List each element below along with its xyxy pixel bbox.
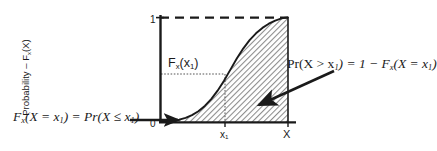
x-axis-tick-x1: x1	[220, 130, 228, 141]
right-formula-label: Pr(X > x1) = 1 − Fx(X = x1)	[287, 57, 437, 72]
cdf-diagram: Fx(X = x1) = Pr(X ≤ x1) Pr(X > x1) = 1 −…	[0, 0, 437, 151]
y-axis-tick-zero: 0	[150, 119, 156, 129]
x-axis-label: X	[283, 129, 290, 140]
curve-value-label: Fx(x1)	[168, 57, 198, 70]
y-axis-tick-one: 1	[150, 15, 156, 25]
y-axis-label: Probability – Fx(X)	[21, 23, 32, 133]
diagram-canvas	[0, 0, 437, 151]
